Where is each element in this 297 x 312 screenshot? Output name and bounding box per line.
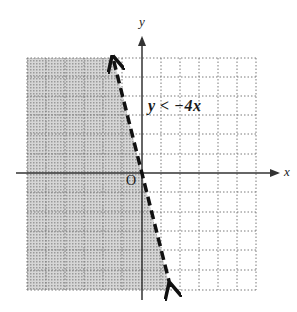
y-axis-label: y bbox=[139, 14, 145, 30]
inequality-label: y < −4x bbox=[148, 97, 201, 115]
inequality-graph bbox=[0, 0, 297, 312]
x-axis-label: x bbox=[284, 164, 290, 180]
shaded-region bbox=[27, 58, 171, 290]
origin-label: O bbox=[126, 173, 136, 189]
